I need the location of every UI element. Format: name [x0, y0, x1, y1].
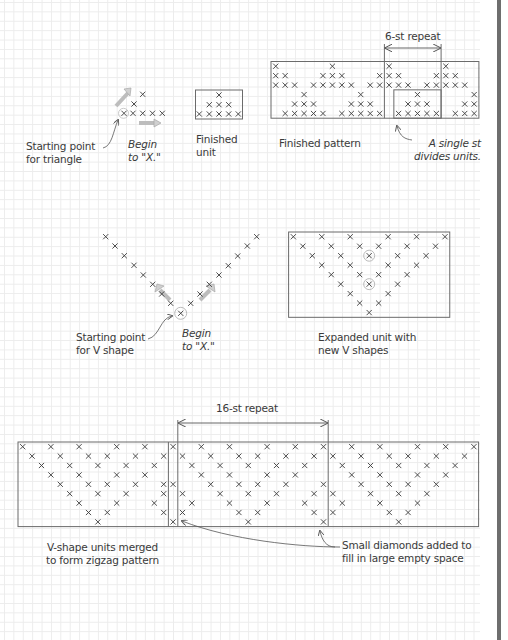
stitch-x-icon [161, 482, 166, 487]
stitch-x-icon [406, 454, 411, 459]
stitch-x-icon [283, 111, 288, 116]
stitch-x-icon [414, 234, 419, 239]
stitch-x-icon [171, 482, 176, 487]
v-shape-diagram [103, 234, 259, 339]
stitch-x-icon [329, 272, 334, 277]
stitch-x-icon [48, 472, 53, 477]
stitch-x-icon [86, 510, 91, 515]
stitch-x-icon [227, 444, 232, 449]
stitch-x-icon [396, 111, 401, 116]
stitch-x-icon [443, 472, 448, 477]
stitch-x-icon [338, 253, 343, 258]
stitch-x-icon [349, 101, 354, 106]
stitch-x-icon [312, 510, 317, 515]
stitch-x-icon [396, 83, 401, 88]
stitch-x-icon [77, 501, 82, 506]
stitch-x-icon [236, 510, 241, 515]
stitch-x-icon [142, 444, 147, 449]
stitch-x-icon [218, 463, 223, 468]
stitch-x-icon [255, 454, 260, 459]
diamond-pointer-arrow-left [182, 521, 340, 547]
stitch-x-icon [77, 472, 82, 477]
stitch-x-icon [472, 111, 477, 116]
stitch-x-icon [216, 92, 221, 97]
zigzag-stitches [20, 444, 476, 524]
stitch-x-icon [387, 482, 392, 487]
stitch-x-icon [349, 83, 354, 88]
stitch-x-icon [226, 111, 231, 116]
stitch-x-icon [265, 472, 270, 477]
finished-pattern-stitches [273, 64, 477, 116]
stitch-x-icon [340, 463, 345, 468]
stitch-x-icon [273, 73, 278, 78]
stitch-x-icon [95, 491, 100, 496]
stitch-x-icon [105, 482, 110, 487]
stitch-x-icon [330, 73, 335, 78]
stitch-x-icon [462, 111, 467, 116]
stitch-x-icon [387, 510, 392, 515]
stitch-x-icon [236, 482, 241, 487]
stitch-x-icon [358, 111, 363, 116]
stitch-x-icon [367, 282, 372, 287]
stitch-x-icon [330, 454, 335, 459]
stitch-x-icon [140, 92, 145, 97]
stitch-x-icon [330, 64, 335, 69]
v-begin-label: Begin to "X." [182, 327, 215, 353]
stitch-x-icon [358, 92, 363, 97]
stitch-x-icon [329, 244, 334, 249]
stitch-x-icon [133, 482, 138, 487]
stitch-x-icon [140, 111, 145, 116]
stitch-x-icon [357, 301, 362, 306]
stitch-x-icon [292, 111, 297, 116]
stitch-x-icon [424, 463, 429, 468]
stitch-x-icon [105, 510, 110, 515]
stitch-x-icon [405, 101, 410, 106]
stitch-x-icon [208, 454, 213, 459]
stitch-x-icon [152, 501, 157, 506]
stitch-x-icon [161, 491, 166, 496]
stitch-x-icon [367, 310, 372, 315]
stitch-x-icon [152, 463, 157, 468]
stitch-x-icon [291, 234, 296, 239]
stitch-x-icon [168, 301, 173, 306]
v-start-label: Starting point for V shape [76, 331, 145, 357]
stitch-x-icon [453, 73, 458, 78]
stitch-x-icon [330, 83, 335, 88]
stitch-x-icon [387, 83, 392, 88]
stitch-x-icon [208, 482, 213, 487]
stitch-x-icon [114, 472, 119, 477]
stitch-x-icon [471, 444, 476, 449]
stitch-x-icon [377, 501, 382, 506]
stitch-x-icon [320, 73, 325, 78]
stitch-x-icon [254, 234, 259, 239]
stitch-x-icon [472, 92, 477, 97]
stitch-x-icon [395, 253, 400, 258]
diamond-note: Small diamonds added to fill in large em… [342, 539, 471, 565]
stitch-x-icon [424, 111, 429, 116]
stitch-x-icon [246, 519, 251, 524]
stitch-x-icon [112, 243, 117, 248]
stitch-x-icon [265, 501, 270, 506]
stitch-x-icon [320, 83, 325, 88]
stitch-x-icon [95, 519, 100, 524]
stitch-x-icon [274, 463, 279, 468]
stitch-x-icon [274, 491, 279, 496]
stitch-x-icon [396, 491, 401, 496]
stitch-x-icon [171, 444, 176, 449]
stitch-x-icon [434, 83, 439, 88]
stitch-x-icon [387, 64, 392, 69]
stitch-x-icon [462, 83, 467, 88]
six-st-repeat-label: 6-st repeat [385, 30, 440, 43]
stitch-x-icon [368, 463, 373, 468]
stitch-x-icon [330, 491, 335, 496]
stitch-x-icon [131, 263, 136, 268]
stitch-x-icon [462, 454, 467, 459]
stitch-x-icon [321, 444, 326, 449]
stitch-x-icon [114, 501, 119, 506]
stitch-x-icon [199, 444, 204, 449]
stitch-x-icon [180, 454, 185, 459]
stitch-x-icon [443, 73, 448, 78]
stitch-x-icon [246, 463, 251, 468]
stitch-x-icon [348, 291, 353, 296]
stitch-x-icon [377, 444, 382, 449]
